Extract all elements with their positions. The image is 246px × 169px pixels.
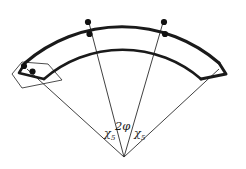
dot-end-cap-lower	[29, 68, 35, 74]
annular-sector-figure: χ5 2φ χ5	[0, 0, 246, 169]
chi-5-right-subscript: 5	[141, 134, 146, 142]
two-phi-label: 2φ	[114, 119, 130, 133]
dot-right-inner-arc	[162, 31, 168, 37]
chi-5-left-subscript: 5	[111, 134, 116, 142]
diagram-canvas: χ5 2φ χ5	[0, 0, 246, 169]
dot-right-outer-arc	[161, 19, 167, 25]
dot-end-cap-upper	[21, 63, 27, 69]
dot-left-inner-arc	[86, 31, 92, 37]
dot-left-outer-arc	[85, 19, 91, 25]
